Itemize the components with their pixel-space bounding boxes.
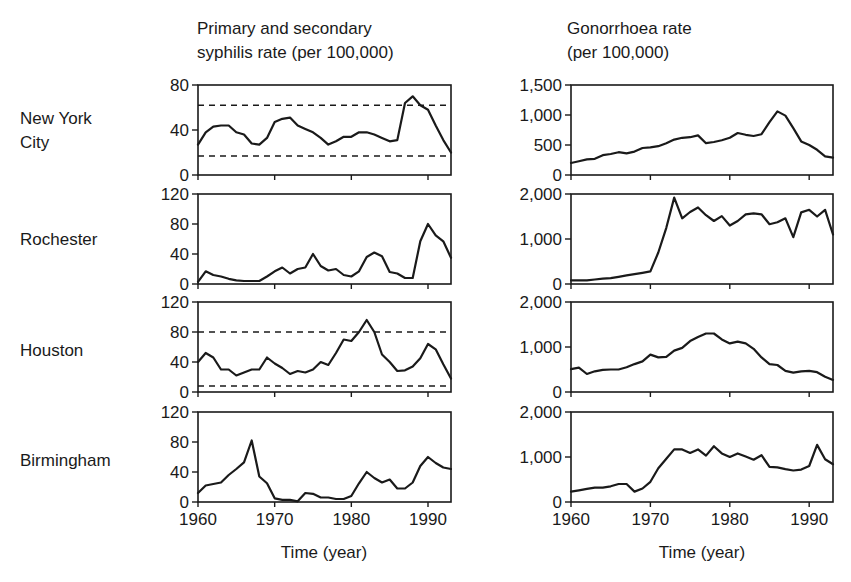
y-tick-label: 40	[170, 353, 189, 372]
y-tick-label: 120	[161, 185, 189, 204]
rate-line	[198, 441, 451, 502]
plot-frame	[571, 194, 833, 284]
x-tick-label: 1980	[332, 510, 370, 529]
plot-frame	[571, 412, 833, 502]
row-label-rochester: Rochester	[20, 230, 98, 249]
rate-line	[571, 111, 833, 163]
y-tick-label: 80	[170, 215, 189, 234]
row-label-new-york-city-line1: New York	[20, 109, 92, 128]
syphilis-column-title-line1: Primary and secondary	[197, 19, 372, 38]
rate-line	[198, 224, 451, 282]
x-tick-label: 1980	[711, 510, 749, 529]
panels-group: 0408005001,0001,5000408012001,0002,00004…	[161, 76, 833, 529]
x-axis-title-syphilis: Time (year)	[281, 543, 367, 562]
panel-3-syphilis: 040801201960197019801990	[161, 403, 451, 529]
panel-0-syphilis: 04080	[170, 76, 451, 185]
rate-line	[571, 334, 833, 380]
y-tick-label: 1,500	[519, 76, 562, 95]
y-tick-label: 0	[180, 383, 189, 402]
x-tick-label: 1990	[790, 510, 828, 529]
y-tick-label: 2,000	[519, 185, 562, 204]
y-tick-label: 1,000	[519, 338, 562, 357]
y-tick-label: 40	[170, 463, 189, 482]
plot-frame	[198, 85, 451, 175]
panel-1-gonorrhoea: 01,0002,000	[519, 185, 833, 294]
rate-line	[571, 198, 833, 281]
x-tick-label: 1990	[409, 510, 447, 529]
plot-frame	[198, 302, 451, 392]
panel-3-gonorrhoea: 01,0002,0001960197019801990	[519, 403, 833, 529]
y-tick-label: 1,000	[519, 448, 562, 467]
x-tick-label: 1960	[552, 510, 590, 529]
x-axis-title-gonorrhoea: Time (year)	[659, 543, 745, 562]
y-tick-label: 0	[553, 166, 562, 185]
y-tick-label: 2,000	[519, 403, 562, 422]
plot-frame	[198, 194, 451, 284]
y-tick-label: 0	[553, 383, 562, 402]
gonorrhoea-column-title-line1: Gonorrhoea rate	[567, 19, 692, 38]
panel-0-gonorrhoea: 05001,0001,500	[519, 76, 833, 185]
gonorrhoea-column-title-line2: (per 100,000)	[567, 43, 669, 62]
rate-line	[198, 320, 451, 379]
panel-1-syphilis: 04080120	[161, 185, 451, 294]
panel-2-syphilis: 04080120	[161, 293, 451, 402]
y-tick-label: 120	[161, 403, 189, 422]
x-tick-label: 1970	[256, 510, 294, 529]
y-tick-label: 80	[170, 323, 189, 342]
panel-2-gonorrhoea: 01,0002,000	[519, 293, 833, 402]
row-label-houston: Houston	[20, 341, 83, 360]
y-tick-label: 40	[170, 245, 189, 264]
y-tick-label: 0	[180, 166, 189, 185]
y-tick-label: 1,000	[519, 230, 562, 249]
plot-frame	[571, 302, 833, 392]
x-tick-label: 1960	[179, 510, 217, 529]
y-tick-label: 120	[161, 293, 189, 312]
y-tick-label: 0	[553, 275, 562, 294]
syphilis-column-title-line2: syphilis rate (per 100,000)	[197, 43, 394, 62]
y-tick-label: 80	[170, 433, 189, 452]
rate-line	[571, 445, 833, 492]
y-tick-label: 500	[534, 136, 562, 155]
y-tick-label: 0	[180, 275, 189, 294]
y-tick-label: 40	[170, 121, 189, 140]
x-tick-label: 1970	[631, 510, 669, 529]
y-tick-label: 2,000	[519, 293, 562, 312]
chart-figure: Primary and secondary syphilis rate (per…	[0, 0, 851, 582]
y-tick-label: 1,000	[519, 106, 562, 125]
y-tick-label: 80	[170, 76, 189, 95]
row-label-birmingham: Birmingham	[20, 451, 111, 470]
plot-frame	[198, 412, 451, 502]
row-label-new-york-city-line2: City	[20, 133, 50, 152]
